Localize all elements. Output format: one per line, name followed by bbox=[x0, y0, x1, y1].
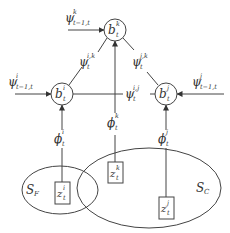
svg-text:j,k: j,k bbox=[138, 52, 148, 60]
svg-text:F: F bbox=[33, 190, 40, 198]
edge-label-jk-to-bj bbox=[147, 72, 158, 85]
label-psi-i-prev: ψ i t−1,t bbox=[8, 72, 33, 91]
edge-label-ik-to-bk bbox=[98, 38, 107, 52]
svg-text:t: t bbox=[87, 63, 90, 71]
svg-text:i: i bbox=[63, 84, 65, 92]
svg-text:i: i bbox=[16, 72, 18, 80]
svg-text:b: b bbox=[159, 87, 167, 101]
svg-text:t−1,t: t−1,t bbox=[73, 19, 90, 27]
svg-text:k: k bbox=[115, 112, 119, 120]
label-psi-jk: ψ j,k t bbox=[132, 52, 148, 71]
graphical-model-diagram: b k t b i t b j t ψ k t−1,t ψ i t−1,t ψ … bbox=[0, 0, 230, 233]
svg-text:t: t bbox=[166, 140, 169, 148]
svg-text:t: t bbox=[63, 95, 66, 103]
svg-text:z: z bbox=[109, 168, 116, 179]
svg-text:i,k: i,k bbox=[87, 52, 95, 60]
svg-text:t−1,t: t−1,t bbox=[16, 83, 33, 91]
label-phi-i: ϕ i t bbox=[54, 128, 65, 148]
svg-text:t: t bbox=[167, 209, 170, 217]
label-set-sf: S F bbox=[26, 183, 40, 198]
svg-text:C: C bbox=[204, 188, 210, 196]
label-psi-ik: ψ i,k t bbox=[79, 52, 95, 71]
svg-text:t: t bbox=[115, 124, 118, 132]
svg-text:t: t bbox=[133, 95, 136, 103]
label-set-sc: S C bbox=[196, 181, 210, 196]
svg-text:b: b bbox=[55, 87, 63, 101]
node-b-k: b k t bbox=[104, 19, 126, 41]
svg-text:b: b bbox=[108, 23, 116, 37]
node-b-i: b i t bbox=[51, 83, 73, 105]
svg-text:k: k bbox=[116, 164, 120, 172]
svg-text:t: t bbox=[62, 140, 65, 148]
svg-text:k: k bbox=[116, 20, 120, 28]
svg-text:ϕ: ϕ bbox=[54, 132, 62, 146]
svg-text:S: S bbox=[196, 181, 204, 195]
edge-bi-to-label-ik bbox=[69, 67, 82, 85]
svg-text:ϕ: ϕ bbox=[158, 132, 166, 146]
observation-z-j: z j t bbox=[159, 197, 174, 219]
svg-text:z: z bbox=[56, 188, 63, 199]
label-phi-j: ϕ j t bbox=[158, 128, 169, 148]
label-psi-j-prev: ψ j t−1,t bbox=[192, 72, 217, 91]
svg-text:t−1,t: t−1,t bbox=[200, 83, 217, 91]
node-b-j: b j t bbox=[155, 83, 177, 105]
svg-text:i,j: i,j bbox=[133, 84, 139, 92]
label-psi-ij: ψ i,j t bbox=[125, 84, 139, 103]
observation-z-k: z k t bbox=[108, 162, 123, 183]
svg-text:k: k bbox=[73, 8, 77, 16]
svg-text:z: z bbox=[160, 203, 167, 214]
label-phi-k: ϕ k t bbox=[107, 112, 119, 132]
label-psi-k-prev: ψ k t−1,t bbox=[65, 8, 90, 27]
svg-text:S: S bbox=[26, 183, 34, 197]
edge-bk-to-label-jk bbox=[123, 38, 134, 50]
svg-text:t: t bbox=[116, 174, 119, 182]
svg-text:i: i bbox=[63, 184, 65, 192]
svg-text:t: t bbox=[63, 194, 66, 202]
svg-text:t: t bbox=[140, 63, 143, 71]
observation-z-i: z i t bbox=[55, 182, 70, 204]
svg-text:ϕ: ϕ bbox=[107, 116, 115, 130]
svg-text:i: i bbox=[62, 128, 64, 136]
svg-text:t: t bbox=[116, 31, 119, 39]
svg-text:t: t bbox=[167, 95, 170, 103]
